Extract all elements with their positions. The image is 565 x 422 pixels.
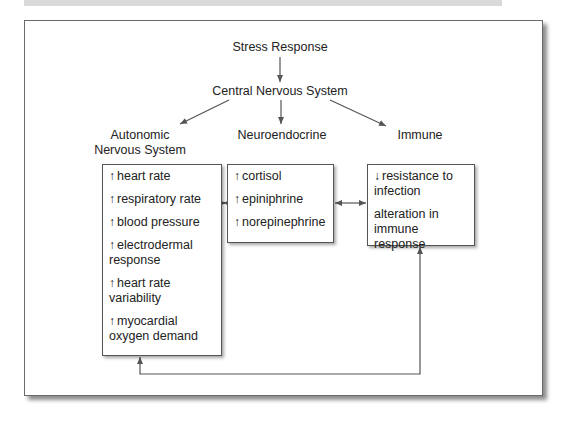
item-text-cont: immune response bbox=[374, 222, 425, 251]
up-arrow-icon: ↑ bbox=[234, 169, 242, 184]
item-text: myocardial bbox=[117, 314, 177, 328]
up-arrow-icon: ↑ bbox=[109, 276, 117, 291]
down-arrow-icon: ↓ bbox=[374, 169, 382, 184]
list-item: ↑blood pressure bbox=[109, 215, 215, 230]
neuroendocrine-header: Neuroendocrine bbox=[232, 128, 332, 143]
neuroendocrine-box: ↑cortisol ↑epiniphrine ↑norepinephrine bbox=[227, 164, 334, 243]
list-item: ↑epiniphrine bbox=[234, 192, 327, 207]
autonomic-header: Autonomic Nervous System bbox=[85, 128, 195, 158]
item-text-cont: oxygen demand bbox=[109, 329, 198, 343]
list-item: ↓resistance toinfection bbox=[374, 169, 468, 199]
up-arrow-icon: ↑ bbox=[109, 215, 117, 230]
item-text: alteration in bbox=[374, 207, 439, 221]
list-item: ↑heart ratevariability bbox=[109, 276, 215, 306]
item-text: electrodermal bbox=[117, 238, 193, 252]
item-text: epiniphrine bbox=[242, 192, 303, 206]
list-item: ↑cortisol bbox=[234, 169, 327, 184]
item-text-cont: variability bbox=[109, 291, 161, 305]
immune-header: Immune bbox=[380, 128, 460, 143]
item-text-cont: infection bbox=[374, 184, 421, 198]
autonomic-header-line2: Nervous System bbox=[85, 143, 195, 158]
list-item: ↑electrodermalresponse bbox=[109, 238, 215, 268]
list-item: ↑heart rate bbox=[109, 169, 215, 184]
up-arrow-icon: ↑ bbox=[109, 169, 117, 184]
item-text: respiratory rate bbox=[117, 192, 201, 206]
item-text: blood pressure bbox=[117, 215, 200, 229]
autonomic-box: ↑heart rate ↑respiratory rate ↑blood pre… bbox=[102, 164, 222, 356]
up-arrow-icon: ↑ bbox=[234, 192, 242, 207]
item-text: resistance to bbox=[382, 169, 453, 183]
list-item: alteration inimmune response bbox=[374, 207, 468, 252]
up-arrow-icon: ↑ bbox=[109, 238, 117, 253]
central-nervous-system-label: Central Nervous System bbox=[205, 84, 355, 99]
immune-box: ↓resistance toinfection alteration inimm… bbox=[367, 164, 475, 246]
up-arrow-icon: ↑ bbox=[234, 215, 242, 230]
list-item: ↑respiratory rate bbox=[109, 192, 215, 207]
arrow-cns-to-autonomic bbox=[180, 100, 229, 124]
list-item: ↑myocardialoxygen demand bbox=[109, 314, 215, 344]
up-arrow-icon: ↑ bbox=[109, 192, 117, 207]
autonomic-header-line1: Autonomic bbox=[85, 128, 195, 143]
list-item: ↑norepinephrine bbox=[234, 215, 327, 230]
arrow-cns-to-immune bbox=[330, 100, 386, 126]
item-text: norepinephrine bbox=[242, 215, 325, 229]
item-text: cortisol bbox=[242, 169, 282, 183]
up-arrow-icon: ↑ bbox=[109, 314, 117, 329]
item-text-cont: response bbox=[109, 253, 160, 267]
item-text: heart rate bbox=[117, 276, 171, 290]
item-text: heart rate bbox=[117, 169, 171, 183]
stress-response-label: Stress Response bbox=[205, 40, 355, 55]
